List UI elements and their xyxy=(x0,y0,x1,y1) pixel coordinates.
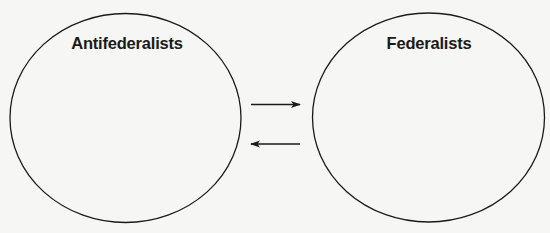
antifederalists-label: Antifederalists xyxy=(71,34,183,53)
federalists-label: Federalists xyxy=(387,34,472,53)
venn-compare-diagram: Antifederalists Federalists xyxy=(0,0,550,233)
